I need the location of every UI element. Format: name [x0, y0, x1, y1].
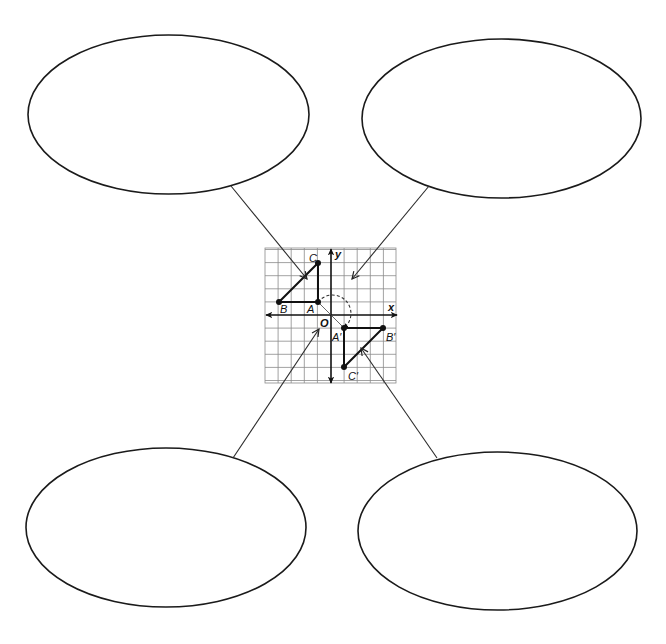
connector-top-right: [352, 186, 429, 279]
y-axis-label: y: [334, 248, 342, 260]
connector-bottom-left: [233, 329, 319, 458]
concept-map-canvas: x y O A B C A′ B′ C′: [0, 0, 666, 644]
label-C: C: [309, 252, 317, 264]
triangle-A-prime-B-prime-C-prime: A′ B′ C′: [331, 325, 396, 382]
label-C-prime: C′: [348, 370, 359, 382]
point-A: [315, 299, 321, 305]
origin-label: O: [320, 317, 329, 329]
label-A-prime: A′: [331, 331, 342, 343]
x-axis-label: x: [387, 301, 395, 313]
ellipse-bottom-right: [358, 452, 637, 610]
connectors: [231, 186, 437, 458]
label-B: B: [280, 303, 287, 315]
point-C-prime: [341, 364, 347, 370]
ellipse-bottom-left: [26, 448, 306, 607]
label-B-prime: B′: [386, 331, 396, 343]
connector-bottom-right: [361, 348, 437, 458]
triangle-ABC: A B C: [276, 252, 321, 315]
connector-top-left: [231, 186, 307, 279]
ellipse-top-right: [362, 39, 641, 198]
point-A-prime: [341, 325, 347, 331]
label-A: A: [306, 303, 314, 315]
coordinate-graph: x y O A B C A′ B′ C′: [265, 248, 397, 383]
ellipse-top-left: [28, 35, 309, 194]
